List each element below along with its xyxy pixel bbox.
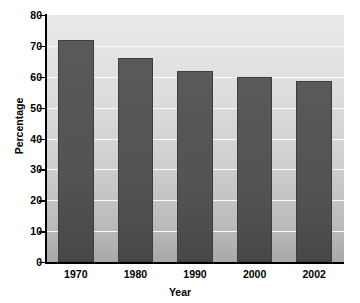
y-axis-tick-label: 80 [30,10,42,21]
y-axis-tick-label: 70 [30,41,42,52]
y-axis-tick-label: 30 [30,164,42,175]
y-axis-tick-label: 60 [30,72,42,83]
y-axis-tick-label: 40 [30,134,42,145]
x-axis-tick-label: 2000 [225,268,285,280]
x-axis-tick-label: 1990 [165,268,225,280]
bar-chart: 01020304050607080 19701980199020002002 P… [0,0,360,303]
y-axis-tick-label: 0 [36,257,42,268]
x-axis-tick-label: 2002 [284,268,344,280]
x-axis-tick-label: 1980 [106,268,166,280]
bar [296,81,332,262]
y-axis-tick-label: 50 [30,103,42,114]
x-axis-title: Year [0,286,360,298]
y-axis-title: Percentage [13,61,25,191]
y-axis-line [45,14,47,263]
bar [118,58,154,262]
y-axis-tick-label: 20 [30,195,42,206]
x-axis-line [45,262,344,264]
bar [177,71,213,262]
y-axis-tick-label: 10 [30,226,42,237]
bar [237,77,273,262]
bar [58,40,94,262]
plot-area [46,15,344,262]
x-axis-tick-label: 1970 [46,268,106,280]
